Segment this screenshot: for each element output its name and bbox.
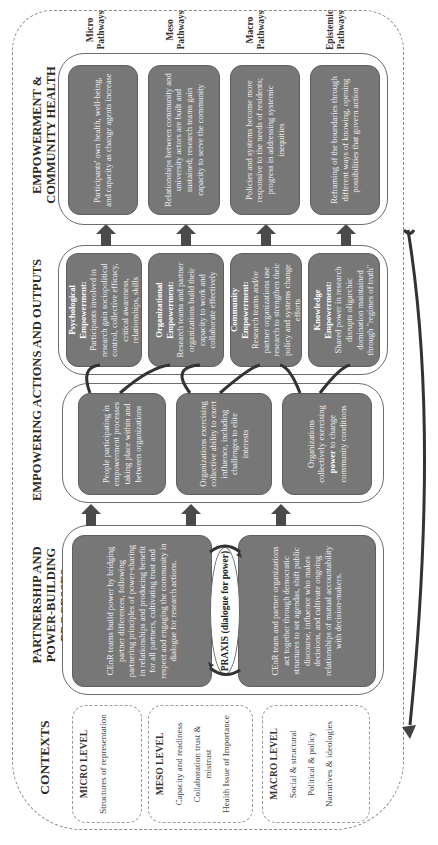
feedback-loop-arrow-icon: [0, 0, 438, 845]
framework-diagram: CONTEXTS PARTNERSHIP AND POWER-BUILDING …: [0, 0, 438, 845]
